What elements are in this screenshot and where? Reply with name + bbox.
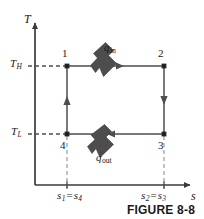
process-2-3-arrowhead — [160, 96, 167, 105]
state-point-3-label: 3 — [158, 140, 164, 151]
ts-diagram-canvas — [0, 0, 204, 219]
entropy-s2-s3-tick-label: s2=s3 — [141, 190, 166, 203]
figure-caption: FIGURE 8-8 — [127, 203, 195, 217]
state-point-1-marker — [65, 64, 70, 69]
entropy-s1-s4-tick-label: s1=s4 — [57, 190, 82, 203]
process-1-2-arrowhead — [116, 62, 124, 69]
x-axis-label: s — [191, 190, 196, 202]
state-point-2-marker — [162, 64, 167, 69]
process-4-1-arrowhead — [63, 96, 70, 105]
state-point-3-marker — [162, 132, 167, 137]
temperature-high-tick-label: TH — [10, 58, 22, 71]
state-point-1-label: 1 — [62, 48, 68, 59]
y-axis-label: T — [24, 13, 31, 25]
temperature-low-tick-label: TL — [11, 126, 22, 139]
heat-output-label: qout — [96, 152, 112, 164]
state-point-2-label: 2 — [158, 48, 164, 59]
state-point-4-label: 4 — [60, 140, 66, 151]
heat-input-label: qin — [104, 42, 116, 54]
figure-container: T s TH TL 1 2 3 4 qin qout s1=s4 s2=s3 F… — [0, 0, 204, 219]
state-point-4-marker — [65, 132, 70, 137]
